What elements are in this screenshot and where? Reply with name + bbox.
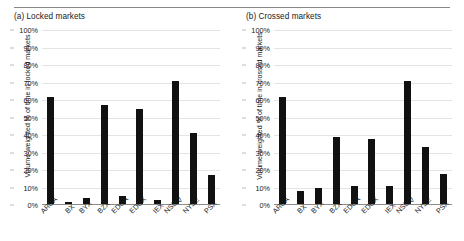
x-label-slot: NSDQ bbox=[399, 207, 417, 241]
y-tick-mark bbox=[10, 205, 14, 206]
y-tick-label: 40% bbox=[23, 131, 38, 140]
bar[interactable] bbox=[172, 81, 179, 205]
y-tick-mark bbox=[242, 47, 246, 48]
panel-a-x-tick-labels: ARCABXBYXBZXEDGAEDGXIEXNSDQNYSEPSX bbox=[42, 207, 220, 241]
x-label-slot: BYX bbox=[78, 207, 96, 241]
y-tick-label: 40% bbox=[255, 131, 270, 140]
y-tick-label: 10% bbox=[23, 183, 38, 192]
y-tick-mark bbox=[242, 135, 246, 136]
panel-b-y-ticks: 0%10%20%30%40%50%60%70%80%90%100% bbox=[246, 30, 272, 205]
y-tick-label: 0% bbox=[259, 201, 270, 210]
panel-a-plot-area: 0%10%20%30%40%50%60%70%80%90%100% bbox=[42, 30, 220, 205]
bar-slot bbox=[416, 30, 434, 205]
bar[interactable] bbox=[333, 137, 340, 205]
y-tick-mark bbox=[10, 117, 14, 118]
bar-slot bbox=[60, 30, 78, 205]
x-label-slot: ARCA bbox=[274, 207, 292, 241]
y-tick-mark bbox=[10, 152, 14, 153]
y-tick-label: 80% bbox=[255, 61, 270, 70]
x-label-slot: IEX bbox=[381, 207, 399, 241]
bar[interactable] bbox=[136, 109, 143, 205]
y-tick-mark bbox=[242, 187, 246, 188]
y-tick-label: 80% bbox=[23, 61, 38, 70]
panel-b-title: (b) Crossed markets bbox=[246, 12, 321, 21]
y-tick-mark bbox=[242, 117, 246, 118]
x-label-slot: NYSE bbox=[416, 207, 434, 241]
bar[interactable] bbox=[47, 97, 54, 206]
x-label-slot: BZX bbox=[95, 207, 113, 241]
y-tick-label: 60% bbox=[255, 96, 270, 105]
chart-panels: (a) Locked markets Volume-weighted % of … bbox=[0, 10, 464, 241]
x-label-slot: PSX bbox=[434, 207, 452, 241]
y-tick-mark bbox=[10, 187, 14, 188]
x-label-slot: BX bbox=[292, 207, 310, 241]
bar-slot bbox=[149, 30, 167, 205]
bar[interactable] bbox=[279, 97, 286, 206]
panel-b-x-tick-labels: ARCABXBYXBZXEDGAEDGXIEXNSDQNYSEPSX bbox=[274, 207, 452, 241]
y-tick-label: 90% bbox=[255, 43, 270, 52]
y-tick-mark bbox=[10, 47, 14, 48]
panel-b-bars bbox=[274, 30, 452, 205]
bar-slot bbox=[434, 30, 452, 205]
y-tick-label: 100% bbox=[19, 26, 38, 35]
bar-slot bbox=[274, 30, 292, 205]
bar-slot bbox=[202, 30, 220, 205]
bar-slot bbox=[399, 30, 417, 205]
bar[interactable] bbox=[190, 133, 197, 205]
x-label-slot: EDGA bbox=[345, 207, 363, 241]
bar-slot bbox=[292, 30, 310, 205]
x-label-slot: NSDQ bbox=[167, 207, 185, 241]
bar-slot bbox=[113, 30, 131, 205]
chart-panel-locked-markets: (a) Locked markets Volume-weighted % of … bbox=[0, 10, 232, 241]
x-label-slot: BZX bbox=[327, 207, 345, 241]
y-tick-label: 70% bbox=[23, 78, 38, 87]
y-tick-mark bbox=[242, 152, 246, 153]
y-tick-label: 0% bbox=[27, 201, 38, 210]
x-label-slot: EDGA bbox=[113, 207, 131, 241]
panel-b-plot-area: 0%10%20%30%40%50%60%70%80%90%100% bbox=[274, 30, 452, 205]
bar-slot bbox=[131, 30, 149, 205]
y-tick-label: 10% bbox=[255, 183, 270, 192]
y-tick-mark bbox=[242, 100, 246, 101]
bar-slot bbox=[167, 30, 185, 205]
y-tick-label: 20% bbox=[255, 166, 270, 175]
y-tick-label: 70% bbox=[255, 78, 270, 87]
x-label-slot: BX bbox=[60, 207, 78, 241]
bar-slot bbox=[184, 30, 202, 205]
y-tick-mark bbox=[10, 135, 14, 136]
y-tick-label: 90% bbox=[23, 43, 38, 52]
y-tick-label: 100% bbox=[251, 26, 270, 35]
y-tick-label: 60% bbox=[23, 96, 38, 105]
bar-slot bbox=[363, 30, 381, 205]
bar-slot bbox=[42, 30, 60, 205]
y-tick-mark bbox=[242, 170, 246, 171]
y-tick-mark bbox=[10, 82, 14, 83]
bar-slot bbox=[327, 30, 345, 205]
y-tick-mark bbox=[242, 30, 246, 31]
x-label-slot: BYX bbox=[310, 207, 328, 241]
y-tick-label: 30% bbox=[23, 148, 38, 157]
chart-panel-crossed-markets: (b) Crossed markets Volume-weighted % of… bbox=[232, 10, 464, 241]
y-tick-mark bbox=[10, 65, 14, 66]
y-tick-label: 50% bbox=[23, 113, 38, 122]
top-divider-rule bbox=[14, 7, 450, 8]
bar-slot bbox=[78, 30, 96, 205]
panel-a-title: (a) Locked markets bbox=[14, 12, 85, 21]
bar[interactable] bbox=[101, 105, 108, 205]
bar-slot bbox=[95, 30, 113, 205]
bar[interactable] bbox=[404, 81, 411, 205]
y-tick-mark bbox=[10, 30, 14, 31]
bar-slot bbox=[310, 30, 328, 205]
x-label-slot: EDGX bbox=[363, 207, 381, 241]
bar-slot bbox=[345, 30, 363, 205]
y-tick-mark bbox=[10, 100, 14, 101]
x-label-slot: IEX bbox=[149, 207, 167, 241]
figure-page: (a) Locked markets Volume-weighted % of … bbox=[0, 0, 464, 241]
y-tick-mark bbox=[242, 205, 246, 206]
x-label-slot: NYSE bbox=[184, 207, 202, 241]
y-tick-mark bbox=[242, 65, 246, 66]
y-tick-mark bbox=[10, 170, 14, 171]
y-tick-mark bbox=[242, 82, 246, 83]
y-tick-label: 30% bbox=[255, 148, 270, 157]
panel-a-y-ticks: 0%10%20%30%40%50%60%70%80%90%100% bbox=[14, 30, 40, 205]
